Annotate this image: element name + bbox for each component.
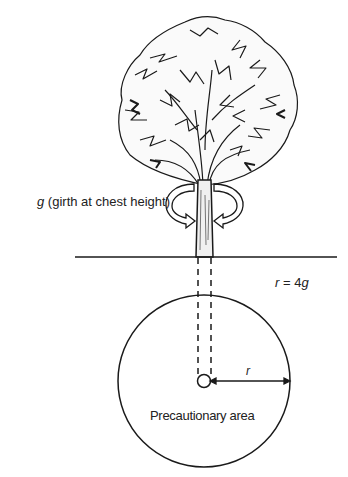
girth-description: (girth at chest height) bbox=[48, 194, 170, 209]
precautionary-area-label: Precautionary area bbox=[150, 408, 254, 423]
radius-formula-unit: g bbox=[301, 275, 308, 290]
tree-trunk-icon bbox=[196, 180, 213, 257]
radius-label: r bbox=[246, 364, 250, 378]
tree-crown-icon bbox=[119, 17, 298, 185]
radius-formula-equals: = bbox=[283, 275, 291, 290]
tree-diagram bbox=[0, 0, 348, 477]
radius-formula-symbol: r bbox=[275, 275, 279, 290]
radius-arrow-icon bbox=[210, 378, 290, 384]
radius-formula: r = 4g bbox=[275, 275, 309, 290]
radius-label-text: r bbox=[246, 364, 250, 378]
girth-symbol: g bbox=[37, 194, 44, 209]
trunk-projection-lines bbox=[198, 258, 211, 378]
girth-label: g (girth at chest height) bbox=[37, 194, 170, 209]
